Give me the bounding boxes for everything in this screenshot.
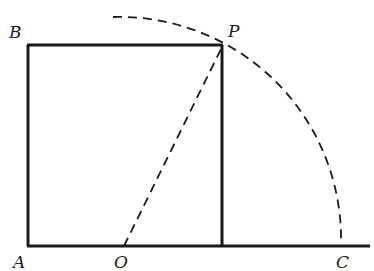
label-A: A <box>11 252 25 271</box>
label-P: P <box>227 21 240 41</box>
geometry-diagram: B P A O C <box>0 0 374 271</box>
label-B: B <box>8 22 22 42</box>
label-O: O <box>114 252 128 271</box>
dashed-arc-PC <box>113 17 341 244</box>
label-C: C <box>336 252 349 271</box>
dashed-segment-OP <box>124 47 222 246</box>
